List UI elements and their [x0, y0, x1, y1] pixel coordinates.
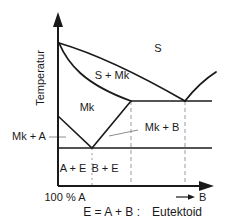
region-label-mk-plus-a: Mk + A	[12, 130, 47, 142]
caption-term: Eutektoid	[152, 205, 202, 219]
y-axis-arrowhead-icon	[53, 12, 63, 27]
region-label-melt: S	[154, 42, 161, 54]
y-axis-label: Temperatur	[34, 50, 46, 106]
caption-formula: E = A + B :	[83, 205, 140, 219]
solvus-boundary	[58, 101, 131, 148]
region-label-melt-plus-mk: S + Mk	[95, 69, 130, 81]
x-axis-end-label: B	[199, 191, 206, 203]
x-axis-origin-label: 100 % A	[45, 191, 87, 203]
phase-diagram: Temperatur S S + Mk Mk Mk + A Mk + B A +…	[0, 0, 228, 224]
region-label-mk: Mk	[80, 101, 95, 113]
region-label-mk-plus-b: Mk + B	[145, 121, 180, 133]
region-label-b-plus-e: B + E	[91, 162, 118, 174]
region-label-a-plus-e: A + E	[60, 162, 87, 174]
b-direction-arrow-icon	[188, 194, 195, 200]
phase-diagram-canvas: Temperatur S S + Mk Mk Mk + A Mk + B A +…	[0, 0, 228, 224]
mk-plus-b-leader-line	[109, 130, 138, 136]
liquidus-curve-right	[185, 72, 216, 101]
x-axis-arrowhead-icon	[199, 181, 214, 191]
